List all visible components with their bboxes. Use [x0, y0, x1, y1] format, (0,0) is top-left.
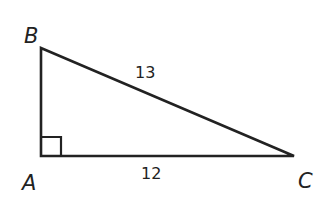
side-length-ac: 12 — [141, 164, 161, 183]
triangle-diagram: B A C 13 12 — [0, 0, 320, 207]
right-angle-marker — [41, 137, 61, 156]
vertex-label-c: C — [298, 169, 313, 193]
side-length-bc: 13 — [135, 63, 155, 82]
vertex-label-a: A — [20, 171, 36, 195]
triangle-abc — [41, 48, 294, 156]
vertex-label-b: B — [24, 24, 38, 48]
